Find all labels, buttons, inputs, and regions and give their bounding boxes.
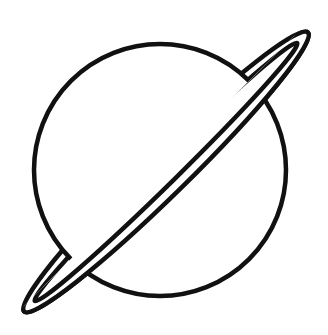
planet-illustration bbox=[0, 0, 328, 335]
saturn-icon bbox=[0, 0, 328, 335]
